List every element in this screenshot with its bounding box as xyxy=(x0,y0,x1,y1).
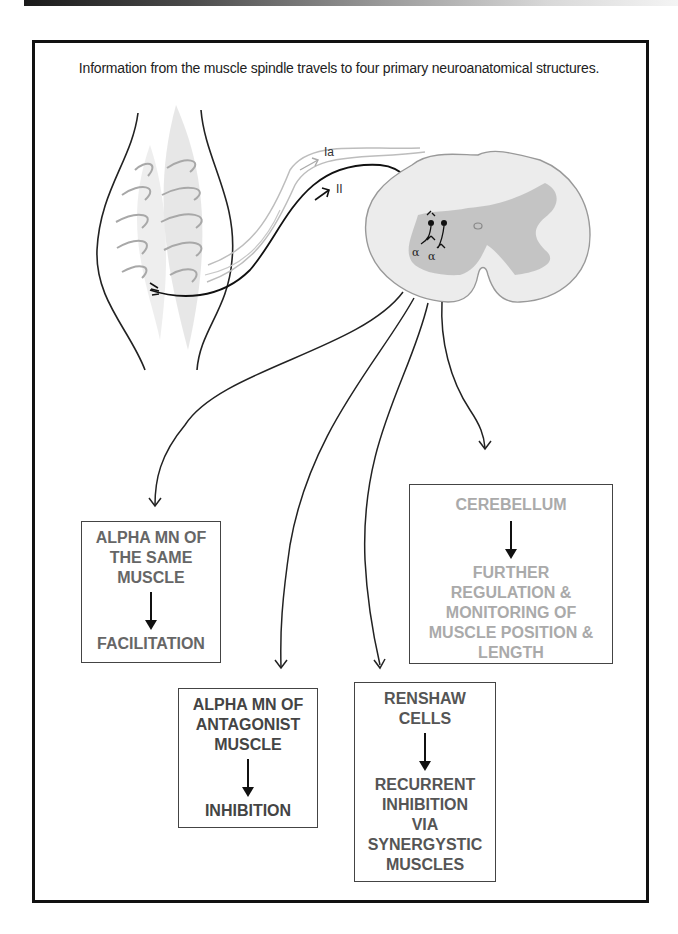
down-arrow-icon xyxy=(505,521,517,559)
box-renshaw-cells: RENSHAW CELLS RECURRENT INHIBITION VIA S… xyxy=(354,682,496,882)
fiber-label-ii: II xyxy=(315,182,343,200)
box-alpha-mn-antagonist: ALPHA MN OF ANTAGONIST MUSCLE INHIBITION xyxy=(178,688,318,828)
down-arrow-icon xyxy=(242,759,254,797)
box-cerebellum: CEREBELLUM FURTHER REGULATION & MONITORI… xyxy=(409,484,613,664)
spinal-cord-cross-section: α α xyxy=(366,151,590,302)
arrow-to-cerebellum xyxy=(442,302,485,448)
box-title: ALPHA MN OF ANTAGONIST MUSCLE xyxy=(179,695,317,755)
box-title: RENSHAW CELLS xyxy=(355,689,495,729)
box-title: ALPHA MN OF THE SAME MUSCLE xyxy=(82,528,220,588)
box-result: FURTHER REGULATION & MONITORING OF MUSCL… xyxy=(410,563,612,663)
box-result: RECURRENT INHIBITION VIA SYNERGYSTIC MUS… xyxy=(355,775,495,875)
box-title: CEREBELLUM xyxy=(410,495,612,515)
box-result: FACILITATION xyxy=(82,634,220,654)
arrow-to-antagonist-mn xyxy=(281,298,414,667)
down-arrow-icon xyxy=(145,592,157,630)
svg-text:α: α xyxy=(412,246,420,259)
intrafusal-fibers xyxy=(116,105,202,350)
box-result: INHIBITION xyxy=(179,801,317,821)
svg-text:Ia: Ia xyxy=(324,145,334,159)
svg-text:II: II xyxy=(336,182,343,196)
down-arrow-icon xyxy=(419,733,431,771)
box-alpha-mn-same-muscle: ALPHA MN OF THE SAME MUSCLE FACILITATION xyxy=(81,521,221,663)
spindle-diagram-illustration: Ia II α α xyxy=(0,0,678,934)
svg-text:α: α xyxy=(428,250,436,263)
fiber-label-ia: Ia xyxy=(300,145,334,170)
